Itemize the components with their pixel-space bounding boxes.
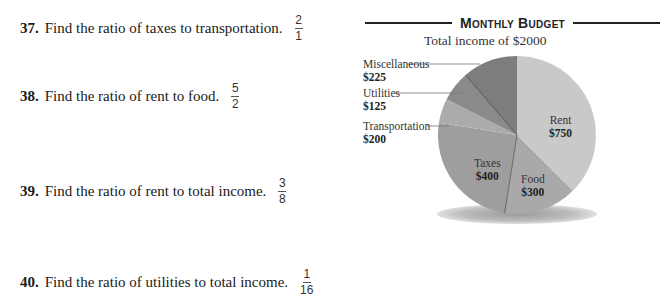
label-miscellaneous: Miscellaneous $225: [363, 58, 429, 84]
label-taxes: Taxes $400: [474, 157, 501, 183]
pie-chart: [0, 0, 668, 304]
label-food: Food $300: [521, 173, 545, 199]
label-rent: Rent $750: [549, 114, 572, 140]
label-utilities: Utilities $125: [363, 87, 400, 113]
label-transportation: Transportation $200: [363, 120, 430, 146]
